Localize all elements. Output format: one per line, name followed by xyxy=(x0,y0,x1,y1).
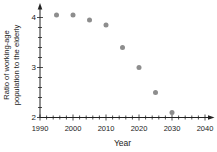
y-axis-title-line1: Ratio of working-age xyxy=(2,30,11,100)
data-point xyxy=(87,18,92,23)
x-axis-title: Year xyxy=(114,138,131,148)
data-point xyxy=(153,90,158,95)
data-point xyxy=(54,13,59,18)
x-tick-label: 2000 xyxy=(65,124,82,133)
data-point xyxy=(104,23,109,28)
y-tick-label: 3 xyxy=(32,63,37,72)
scatter-chart: 234 199020002010202020302040 Ratio of wo… xyxy=(0,0,217,152)
x-axis-arrow-icon xyxy=(208,115,215,120)
data-point xyxy=(71,13,76,18)
y-axis-title-line2: population to the elderly xyxy=(12,24,21,105)
x-tick-label: 2020 xyxy=(131,124,148,133)
x-tick-label: 2040 xyxy=(197,124,214,133)
data-points xyxy=(54,13,175,116)
data-point xyxy=(170,110,175,115)
chart-canvas: 234 199020002010202020302040 Ratio of wo… xyxy=(0,0,217,152)
x-axis-tick-labels: 199020002010202020302040 xyxy=(32,124,214,133)
y-tick-label: 4 xyxy=(32,13,37,22)
data-point xyxy=(120,45,125,50)
y-axis-tick-labels: 234 xyxy=(32,13,37,122)
y-axis-arrow-icon xyxy=(38,3,43,10)
x-tick-label: 2010 xyxy=(98,124,115,133)
data-point xyxy=(137,65,142,70)
x-tick-label: 1990 xyxy=(32,124,49,133)
y-tick-label: 2 xyxy=(32,113,37,122)
x-tick-label: 2030 xyxy=(164,124,181,133)
